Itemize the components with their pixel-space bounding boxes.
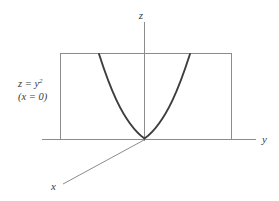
z-axis-label: z <box>138 9 144 21</box>
y-axis-label: y <box>261 133 267 145</box>
equation-label: z = y2 <box>17 77 43 89</box>
x-axis-label: x <box>50 180 56 192</box>
equation-exponent: 2 <box>39 77 43 85</box>
plane-rectangle <box>61 54 232 140</box>
parabola-plane-diagram: z y x z = y2 (x = 0) <box>0 0 279 201</box>
condition-label: (x = 0) <box>18 91 48 103</box>
diagram-canvas: z y x z = y2 (x = 0) <box>0 0 279 201</box>
x-axis-line <box>63 140 144 184</box>
equation-base: z = y <box>17 78 39 89</box>
